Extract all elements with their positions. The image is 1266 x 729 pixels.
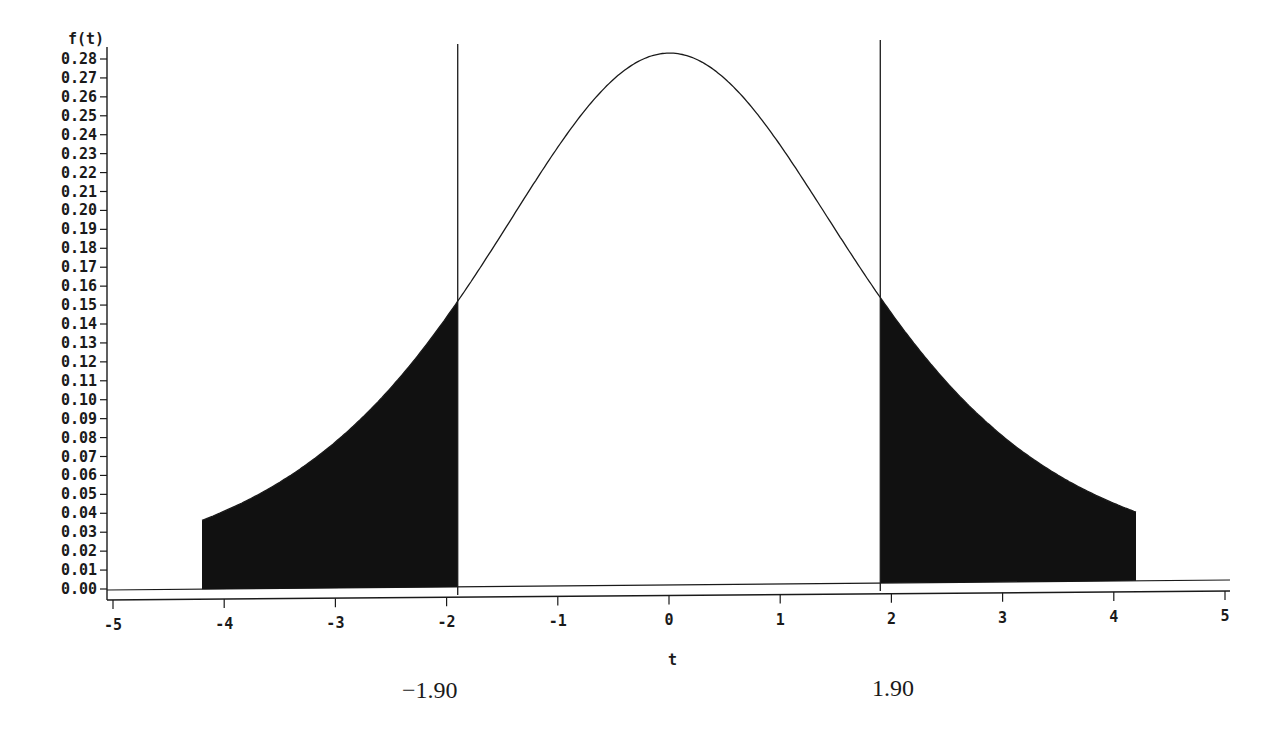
y-tick-label: 0.14 (61, 315, 97, 333)
y-tick-label: 0.09 (61, 410, 97, 428)
y-tick-label: 0.28 (61, 50, 97, 68)
y-tick-label: 0.17 (61, 258, 97, 276)
y-tick-label: 0.26 (61, 88, 97, 106)
y-tick-label: 0.11 (61, 372, 97, 390)
y-tick-label: 0.07 (61, 448, 97, 466)
x-tick-label: 3 (998, 609, 1007, 627)
y-tick-label: 0.12 (61, 353, 97, 371)
y-tick-label: 0.08 (61, 429, 97, 447)
y-tick-label: 0.13 (61, 334, 97, 352)
shaded-tails (202, 298, 1136, 590)
y-tick-label: 0.20 (61, 201, 97, 219)
y-tick-label: 0.18 (61, 239, 97, 257)
x-tick-label: 1 (776, 611, 785, 629)
y-tick-label: 0.22 (61, 164, 97, 182)
left-tail-area (202, 301, 458, 589)
annotation-right: 1.90 (872, 675, 914, 701)
x-tick-label: -3 (326, 614, 344, 632)
y-tick-label: 0.21 (61, 183, 97, 201)
x-tick-label: 5 (1220, 607, 1229, 625)
x-axis-label: t (668, 651, 677, 669)
y-tick-label: 0.23 (61, 145, 97, 163)
y-tick-label: 0.19 (61, 220, 97, 238)
y-tick-label: 0.15 (61, 296, 97, 314)
y-tick-label: 0.02 (61, 542, 97, 560)
x-tick-label: 2 (887, 610, 896, 628)
y-tick-label: 0.03 (61, 523, 97, 541)
y-tick-label: 0.27 (61, 69, 97, 87)
y-tick-label: 0.10 (61, 391, 97, 409)
y-tick-label: 0.00 (61, 580, 97, 598)
x-tick-label: 0 (664, 611, 673, 629)
x-tick-label: -5 (104, 616, 122, 634)
y-tick-label: 0.24 (61, 126, 97, 144)
t-distribution-chart: 0.000.010.020.030.040.050.060.070.080.09… (0, 0, 1266, 729)
x-tick-label: 4 (1109, 608, 1118, 626)
x-tick-label: -2 (438, 613, 456, 631)
y-axis: 0.000.010.020.030.040.050.060.070.080.09… (61, 47, 107, 600)
y-tick-label: 0.25 (61, 107, 97, 125)
y-axis-label: f(t) (68, 30, 104, 48)
y-tick-label: 0.05 (61, 485, 97, 503)
x-tick-label: -1 (549, 612, 567, 630)
y-tick-label: 0.06 (61, 466, 97, 484)
y-tick-label: 0.01 (61, 561, 97, 579)
y-tick-label: 0.16 (61, 277, 97, 295)
x-tick-label: -4 (215, 615, 233, 633)
annotation-left: −1.90 (402, 677, 458, 703)
y-tick-label: 0.04 (61, 504, 97, 522)
